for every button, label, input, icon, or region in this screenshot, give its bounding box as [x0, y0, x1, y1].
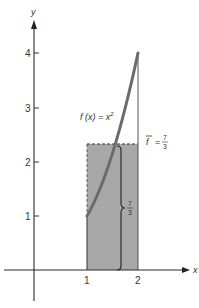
f-bar-equals: = [155, 137, 160, 147]
brace-numerator: 7 [128, 200, 132, 207]
function-label-text: f (x) = x [80, 112, 111, 122]
f-bar-denominator: 3 [163, 143, 167, 150]
brace-denominator: 3 [128, 209, 132, 216]
x-axis-arrow-icon [182, 267, 190, 273]
y-tick-label-3: 3 [25, 103, 31, 114]
x-tick-label-2: 2 [135, 275, 141, 286]
x-tick-label-1: 1 [84, 275, 90, 286]
average-value-label: f = 7 3 [146, 134, 168, 150]
y-tick-label-2: 2 [25, 157, 31, 168]
f-bar-numerator: 7 [163, 134, 167, 141]
y-axis-label: y [30, 7, 36, 17]
y-axis-arrow-icon [31, 20, 37, 29]
function-label-exponent: 2 [109, 111, 114, 117]
y-tick-label-4: 4 [25, 48, 31, 59]
average-value-rectangle [87, 144, 138, 270]
average-value-diagram: y x 4 3 2 1 1 2 f (x) = x2 f = 7 3 7 3 [0, 0, 199, 308]
x-axis-label: x [192, 265, 198, 275]
f-bar-symbol: f [146, 137, 150, 147]
function-label: f (x) = x2 [80, 111, 114, 122]
y-tick-label-1: 1 [25, 211, 31, 222]
